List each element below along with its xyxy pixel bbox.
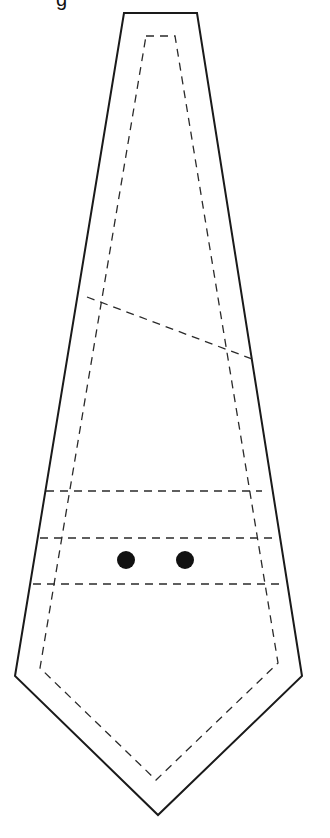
tie-seam-outline (40, 36, 278, 780)
marker-dot-right (176, 551, 194, 569)
marker-dot-left (117, 551, 135, 569)
tie-pattern-diagram (0, 0, 330, 838)
tie-cut-outline (15, 13, 302, 815)
diagonal-guide-line (87, 297, 252, 359)
